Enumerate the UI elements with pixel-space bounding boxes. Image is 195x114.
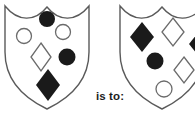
relation-label: is to:	[96, 91, 124, 103]
symbol-circle-open-upper-right	[56, 25, 71, 40]
symbol-circle-open-bottom	[156, 81, 172, 97]
shield-left	[2, 0, 94, 112]
puzzle-figure: is to:	[0, 0, 195, 114]
symbol-circle-filled-center	[147, 53, 164, 70]
shield-right	[117, 0, 195, 112]
symbol-circle-open-upper-left	[17, 29, 32, 44]
symbol-circle-filled-right	[59, 49, 76, 66]
symbol-circle-filled-top	[39, 11, 55, 27]
